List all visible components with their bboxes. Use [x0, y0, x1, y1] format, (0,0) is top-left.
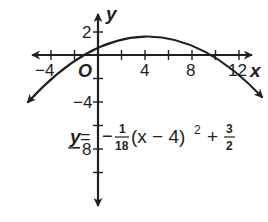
x-tick-label-4: 4	[140, 61, 149, 80]
fraction1-denominator: 18	[115, 139, 129, 153]
fraction2-denominator: 2	[226, 139, 233, 153]
equation-exponent: 2	[194, 123, 201, 137]
x-tick-label-12: 12	[228, 61, 247, 80]
y-axis-label: y	[105, 3, 118, 24]
fraction2-numerator: 3	[226, 122, 233, 136]
x-tick-label-neg4: −4	[35, 61, 54, 80]
y-axis: 2 −4 8 − y O	[72, 3, 118, 206]
x-tick-label-8: 8	[186, 61, 195, 80]
y-tick-label-2: 2	[82, 23, 91, 42]
fraction1-numerator: 1	[119, 122, 126, 136]
equation-plus: +	[207, 126, 218, 147]
parabola-graph: −4 4 8 12 x 2 −4 8 − y O y = − 1 18 (x −…	[0, 0, 268, 222]
x-axis-label: x	[249, 60, 262, 81]
origin-label: O	[78, 61, 92, 81]
y-tick-label-neg4: −4	[73, 93, 92, 112]
equation-body: (x − 4)	[131, 126, 185, 147]
equation-minus: −	[102, 126, 113, 146]
equation-equals: =	[80, 127, 91, 147]
